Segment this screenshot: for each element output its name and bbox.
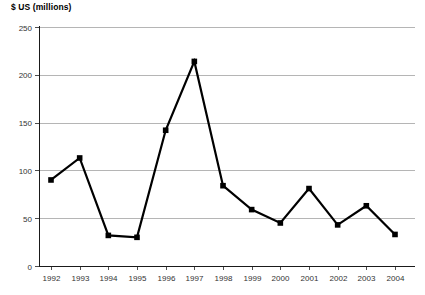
x-axis-tick-label: 1992 <box>43 274 61 283</box>
x-axis-tick-label: 1995 <box>129 274 147 283</box>
data-point-marker <box>48 177 54 183</box>
data-point-marker <box>335 222 341 228</box>
y-axis-tick-label: 0 <box>28 263 33 272</box>
y-axis-ticks <box>35 28 39 267</box>
data-point-marker <box>134 235 140 241</box>
x-axis-tick-label: 2000 <box>272 274 290 283</box>
x-axis-tick-label: 1996 <box>158 274 176 283</box>
x-axis-labels: 1992199319941995199619971998199920002001… <box>43 274 405 283</box>
data-point-marker <box>364 203 370 209</box>
x-axis-tick-label: 1994 <box>100 274 118 283</box>
x-axis-tick-label: 1999 <box>244 274 262 283</box>
data-point-marker <box>392 232 398 238</box>
data-point-marker <box>220 183 226 189</box>
data-point-marker <box>278 220 284 226</box>
x-axis-tick-label: 2003 <box>358 274 376 283</box>
x-axis-tick-label: 2002 <box>330 274 348 283</box>
data-series-line <box>51 61 395 237</box>
y-axis-labels: 050100150200250 <box>19 24 33 272</box>
y-axis-tick-label: 150 <box>19 119 33 128</box>
x-axis-tick-label: 2004 <box>387 274 405 283</box>
y-axis-tick-label: 200 <box>19 71 33 80</box>
chart-plot-area: 050100150200250 199219931994199519961997… <box>0 0 425 295</box>
x-axis-tick-label: 2001 <box>301 274 319 283</box>
x-axis-tick-label: 1998 <box>215 274 233 283</box>
data-point-marker <box>249 207 255 213</box>
line-chart: $ US (millions) 050100150200250 19921993… <box>0 0 425 295</box>
y-axis-tick-label: 50 <box>23 215 32 224</box>
data-point-marker <box>306 186 312 192</box>
y-axis-tick-label: 250 <box>19 24 33 33</box>
x-axis-tick-label: 1993 <box>72 274 90 283</box>
x-axis-tick-label: 1997 <box>186 274 204 283</box>
data-point-marker <box>77 155 83 161</box>
data-point-marker <box>163 127 169 133</box>
y-axis-tick-label: 100 <box>19 167 33 176</box>
data-point-marker <box>192 59 198 65</box>
data-point-marker <box>106 233 112 239</box>
